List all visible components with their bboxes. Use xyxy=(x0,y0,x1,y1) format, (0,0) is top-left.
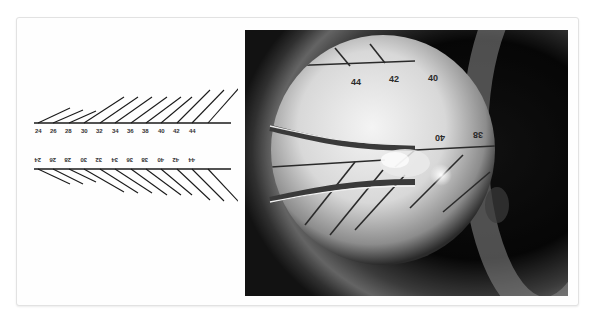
bottom-label: 44 xyxy=(188,157,195,163)
photo-label: 42 xyxy=(389,74,399,84)
top-label: 40 xyxy=(158,128,165,134)
top-ticks xyxy=(38,88,238,123)
microscope-photo: 44 42 40 40 38 xyxy=(245,30,568,296)
bottom-label: 36 xyxy=(126,157,133,163)
top-label: 30 xyxy=(81,128,88,134)
photo-label-inverted: 40 xyxy=(435,133,445,143)
microscope-photo-svg: 44 42 40 40 38 xyxy=(245,30,568,296)
bottom-ticks xyxy=(38,169,238,202)
top-label: 38 xyxy=(142,128,149,134)
top-label: 32 xyxy=(96,128,103,134)
top-label: 44 xyxy=(189,128,196,134)
bottom-label: 30 xyxy=(80,157,87,163)
bottom-label: 40 xyxy=(157,157,164,163)
scale-diagram-svg: 24 26 28 30 32 34 36 38 40 42 44 24 26 2… xyxy=(28,80,238,210)
photo-label-inverted: 38 xyxy=(473,130,483,140)
bottom-label: 24 xyxy=(34,157,41,163)
light-glare xyxy=(430,164,452,186)
scale-diagram: 24 26 28 30 32 34 36 38 40 42 44 24 26 2… xyxy=(28,80,238,210)
bottom-label: 34 xyxy=(111,157,118,163)
top-label: 26 xyxy=(50,128,57,134)
top-label: 24 xyxy=(35,128,42,134)
top-label: 36 xyxy=(127,128,134,134)
bottom-label: 32 xyxy=(95,157,102,163)
bottom-scale-labels: 24 26 28 30 32 34 36 38 40 42 44 xyxy=(34,157,195,163)
top-label: 28 xyxy=(65,128,72,134)
top-label: 42 xyxy=(173,128,180,134)
bottom-label: 38 xyxy=(141,157,148,163)
top-label: 34 xyxy=(112,128,119,134)
photo-label: 44 xyxy=(351,77,361,87)
bottom-label: 28 xyxy=(64,157,71,163)
bottom-label: 42 xyxy=(172,157,179,163)
bottom-label: 26 xyxy=(49,157,56,163)
photo-label: 40 xyxy=(428,73,438,83)
top-scale-labels: 24 26 28 30 32 34 36 38 40 42 44 xyxy=(35,128,196,134)
